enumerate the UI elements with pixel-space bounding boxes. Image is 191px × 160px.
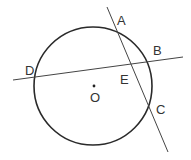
line-AC [107,7,168,152]
label-O: O [90,90,100,105]
label-A: A [117,13,126,28]
label-B: B [153,43,162,58]
label-C: C [156,102,165,117]
line-DB [13,57,183,80]
center-point-O [93,85,96,88]
label-D: D [25,63,34,78]
label-E: E [120,72,129,87]
geometry-diagram: A B D E O C [0,0,191,160]
